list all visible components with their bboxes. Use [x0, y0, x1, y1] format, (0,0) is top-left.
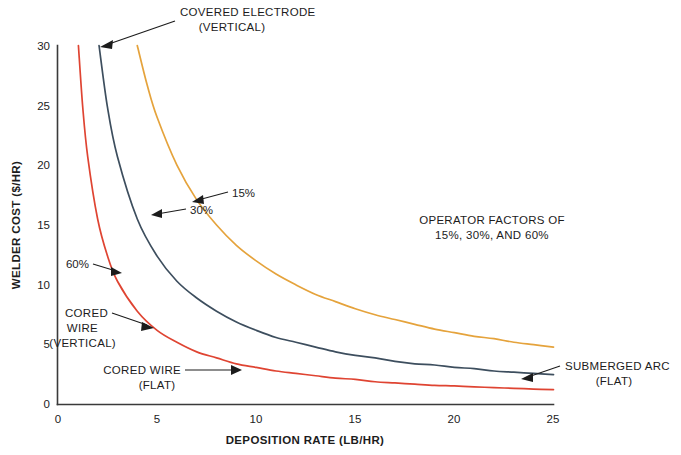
arrowhead-30-percent	[151, 209, 162, 218]
operator-factors-note-line1: OPERATOR FACTORS OF	[419, 214, 565, 226]
operator-factors-note-line2: 15%, 30%, AND 60%	[435, 229, 549, 241]
y-tick-15: 15	[37, 219, 50, 231]
label-30-percent: 30%	[190, 204, 213, 216]
label-15-percent: 15%	[232, 187, 255, 199]
label-cored-wire-flat-line2: (FLAT)	[139, 379, 176, 391]
x-tick-25: 25	[547, 413, 560, 425]
label-submerged-arc-flat-line1: SUBMERGED ARC	[565, 360, 670, 372]
leader-cored-wire-vertical	[112, 313, 147, 325]
label-cored-wire-vertical-line2: WIRE	[67, 322, 98, 334]
label-60-percent: 60%	[66, 258, 89, 270]
y-tick-labels: 30 25 20 15 10 5 0	[37, 40, 50, 410]
chart-figure: 30 25 20 15 10 5 0 0 5 10 15 20 25 DEPOS…	[0, 0, 681, 455]
curve-15-percent-covered-electrode	[137, 46, 553, 348]
y-tick-30: 30	[37, 40, 50, 52]
annotation-leaders	[93, 21, 560, 382]
x-tick-5: 5	[154, 413, 160, 425]
y-tick-0: 0	[44, 398, 50, 410]
label-cored-wire-flat-line1: CORED WIRE	[103, 364, 181, 376]
y-tick-20: 20	[37, 159, 50, 171]
label-cored-wire-vertical-line3: (VERTICAL)	[49, 337, 116, 349]
y-tick-10: 10	[37, 279, 50, 291]
y-tick-25: 25	[37, 100, 50, 112]
y-axis-title: WELDER COST ($/HR)	[10, 161, 22, 289]
arrowhead-cored-wire-flat	[231, 365, 242, 375]
x-tick-20: 20	[448, 413, 461, 425]
label-cored-wire-vertical-line1: CORED	[65, 307, 108, 319]
label-covered-electrode-line1: COVERED ELECTRODE	[180, 6, 315, 18]
arrowhead-submerged-arc-flat	[521, 373, 533, 382]
x-tick-15: 15	[349, 413, 362, 425]
curve-30-percent-submerged-arc	[99, 46, 553, 375]
label-covered-electrode-line2: (VERTICAL)	[199, 21, 266, 33]
arrowhead-60-percent	[111, 267, 122, 276]
x-tick-10: 10	[250, 413, 263, 425]
arrowhead-covered-electrode	[100, 40, 113, 49]
x-tick-0: 0	[55, 413, 61, 425]
x-tick-labels: 0 5 10 15 20 25	[55, 413, 560, 425]
welder-cost-chart: 30 25 20 15 10 5 0 0 5 10 15 20 25 DEPOS…	[0, 0, 681, 455]
leader-covered-electrode	[106, 21, 175, 45]
label-submerged-arc-flat-line2: (FLAT)	[596, 375, 633, 387]
x-axis-title: DEPOSITION RATE (LB/HR)	[226, 434, 385, 446]
